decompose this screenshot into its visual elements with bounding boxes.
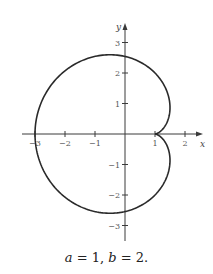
caption-a-value: = 1, [73,250,109,265]
y-axis-arrow-icon [123,23,128,30]
x-axis-label: x [200,139,205,149]
y-tick-label: −3 [108,222,120,231]
x-tick-label: −2 [59,139,71,148]
y-tick-label: 1 [115,100,120,109]
caption-b-var: b [108,250,116,265]
caption-a-var: a [65,250,73,265]
x-tick-label: −1 [89,139,101,148]
figure-caption: a = 1, b = 2. [0,250,213,265]
y-tick-label: 3 [115,39,120,48]
x-tick-label: 2 [182,139,187,148]
y-axis-label: y [115,22,122,32]
x-tick-label: 1 [152,139,157,148]
caption-b-value: = 2. [117,250,149,265]
x-axis-arrow-icon [196,132,203,137]
cardioid-plot: x y −3−2−112321−1−2−3 [0,0,213,274]
y-tick-label: −2 [108,191,120,200]
y-tick-label: −1 [108,161,120,170]
y-tick-label: 2 [115,69,120,78]
